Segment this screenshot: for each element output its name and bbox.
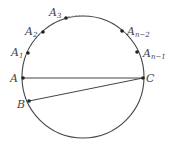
label-an1-sub: n−1	[151, 53, 166, 61]
point-a1	[26, 51, 30, 55]
point-an2	[120, 29, 124, 33]
label-an1: A	[142, 47, 151, 60]
label-a: A	[9, 72, 18, 85]
label-a1: A	[10, 46, 19, 59]
point-a3	[64, 16, 68, 20]
label-a3: A	[48, 6, 57, 19]
label-a2: A	[24, 25, 33, 38]
point-a2	[41, 30, 45, 34]
label-b: B	[16, 98, 25, 111]
label-c: C	[146, 72, 155, 85]
segment-bc	[29, 78, 143, 101]
point-b	[27, 99, 31, 103]
label-a2-sub: 2	[32, 31, 38, 39]
point-a	[21, 76, 25, 80]
label-a1-sub: 1	[19, 52, 23, 60]
point-an1	[135, 50, 139, 54]
label-a3-sub: 3	[57, 12, 62, 20]
geometry-diagram: A B C A 1 A 2 A 3 A n−2 A n−1	[0, 0, 176, 145]
point-c	[141, 76, 145, 80]
label-an2: A	[126, 25, 135, 38]
label-an2-sub: n−2	[135, 31, 150, 39]
